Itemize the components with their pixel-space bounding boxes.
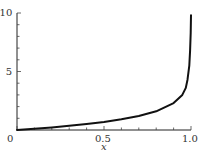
- y-tick-label: 10: [0, 8, 12, 18]
- ticks: [17, 13, 191, 130]
- data-curve: [17, 15, 191, 130]
- x-tick-label: 0: [7, 134, 13, 144]
- x-axis-label: x: [101, 142, 107, 152]
- y-tick-label: 5: [6, 67, 12, 77]
- x-tick-label: 1.0: [182, 134, 198, 144]
- line-chart: [0, 0, 199, 155]
- axes: [17, 13, 191, 130]
